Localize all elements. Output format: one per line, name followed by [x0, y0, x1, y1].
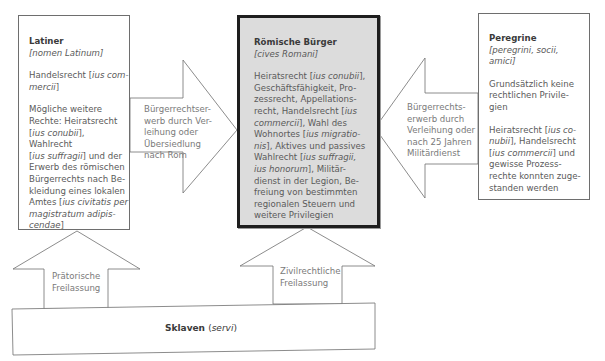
text-line: cendae] — [29, 220, 129, 232]
buerger-subtitle: [cives Romani] — [254, 49, 377, 61]
text-line: Heiratsrecht [ius co- — [489, 125, 589, 137]
peregrine-rights-1-line-1: Grundsätzlich keine — [489, 79, 589, 91]
peregrine-title: Peregrine — [489, 33, 589, 45]
label-sklaven-to-latiner: Prätorische Freilassung — [52, 271, 100, 294]
arrow-sklaven-to-latiner — [13, 231, 140, 309]
peregrine-subtitle-2: amici] — [489, 56, 589, 68]
sklaven-subtitle: (servi) — [208, 323, 237, 333]
text-line: weitere Privilegien — [254, 210, 377, 222]
node-sklaven: Sklaven (servi) — [165, 323, 237, 333]
peregrine-rights-1-line-2: rechtlichen Privile- — [489, 90, 589, 102]
node-peregrine: Peregrine [peregrini, socii, amici] Grun… — [478, 13, 590, 200]
text-line: standen werden — [489, 183, 589, 195]
text-line: [ius conubii], Wahlrecht — [29, 128, 129, 151]
label-latiner-to-buerger: Bürgerrechtser- werb durch Ver- leihung … — [144, 104, 212, 162]
text-line: magistratum adipis- — [29, 209, 129, 221]
peregrine-rights-2: Heiratsrecht [ius co-nubii], Handelsrech… — [489, 125, 589, 195]
text-line: Mögliche weitere — [29, 104, 129, 116]
text-line: ius honorum], Militär- — [254, 164, 377, 176]
text-line: nubii], Handelsrecht — [489, 136, 589, 148]
text-line: recht, Handelsrecht [ius — [254, 106, 377, 118]
text-line: Amtes [ius civitatis per — [29, 197, 129, 209]
text-line: dienst in der Legion, Be- — [254, 176, 377, 188]
text-line: Rechte: Heiratsrecht — [29, 116, 129, 128]
text-line: nis], Aktives und passives — [254, 141, 377, 153]
peregrine-subtitle-1: [peregrini, socii, — [489, 45, 589, 57]
text-line: gewisse Prozess- — [489, 159, 589, 171]
text-line: kleidung eines lokalen — [29, 186, 129, 198]
latiner-rights-1: Handelsrecht [ius com- — [29, 70, 129, 82]
text-line: Bürgerrechts nach Be- — [29, 174, 129, 186]
text-line: Heiratsrecht [ius conubii], — [254, 71, 377, 83]
text-line: Wohnortes [ius migratio- — [254, 129, 377, 141]
text-line: Geschäftsfähigkeit, Pro- — [254, 83, 377, 95]
text-line: rechte konnten zuge- — [489, 171, 589, 183]
latiner-subtitle: [nomen Latinum] — [29, 48, 129, 60]
text-line: zessrecht, Appellations- — [254, 94, 377, 106]
citizenship-diagram: Latiner [nomen Latinum] Handelsrecht [iu… — [0, 0, 605, 361]
label-peregrine-to-buerger: Bürgerrechts- erwerb durch Verleihung od… — [407, 102, 475, 160]
text-line: regionalen Steuern und — [254, 199, 377, 211]
label-sklaven-to-buerger: Zivilrechtliche Freilassung — [280, 266, 341, 289]
text-line: Wahlrecht [ius suffragii, — [254, 152, 377, 164]
text-line: Erwerb des römischen — [29, 162, 129, 174]
sklaven-title: Sklaven — [165, 323, 205, 333]
node-roemische-buerger: Römische Bürger [cives Romani] Heiratsre… — [237, 15, 380, 228]
peregrine-rights-1-line-3: gien — [489, 102, 589, 114]
latiner-title: Latiner — [29, 36, 129, 48]
text-line: commercii], Wahl des — [254, 118, 377, 130]
node-latiner: Latiner [nomen Latinum] Handelsrecht [iu… — [18, 15, 130, 230]
text-line: [ius commercii] und — [489, 148, 589, 160]
buerger-rights: Heiratsrecht [ius conubii],Geschäftsfähi… — [254, 71, 377, 222]
text-line: [ius suffragii] und der — [29, 151, 129, 163]
latiner-rights-2: Mögliche weitereRechte: Heiratsrecht[ius… — [29, 104, 129, 232]
text-line: freiung von bestimmten — [254, 187, 377, 199]
buerger-title: Römische Bürger — [254, 37, 377, 49]
